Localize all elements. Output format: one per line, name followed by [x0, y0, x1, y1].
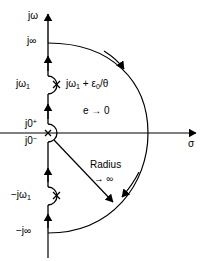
label-j-zero-minus-base: j0	[25, 135, 33, 146]
label-j-zero-plus-base: j0	[25, 118, 33, 129]
label-j-omega-1: jω1	[16, 79, 30, 90]
pole-expression-tail-2: /θ	[100, 78, 108, 89]
label-j-zero-minus: j0−	[25, 135, 37, 146]
label-epsilon-limit: e → 0	[83, 106, 110, 116]
large-arc-arrow-lower	[122, 172, 139, 197]
large-closing-arc	[48, 43, 148, 233]
label-neg-j-omega-1-base: −jω	[11, 189, 27, 200]
label-j-zero-plus-superscript: +	[33, 117, 37, 126]
label-neg-j-omega-1-subscript: 1	[27, 193, 31, 202]
label-j-omega-1-subscript: 1	[26, 82, 30, 91]
label-radius-limit: → ∞	[94, 174, 113, 184]
large-arc-arrow-upper	[104, 51, 124, 69]
imaginary-axis-label: jω	[28, 11, 38, 21]
label-neg-j-omega-1: −jω1	[11, 190, 31, 201]
label-j-infinity: j∞	[27, 36, 36, 46]
label-j-omega-1-base: jω	[16, 78, 26, 89]
label-j-zero-minus-superscript: −	[33, 134, 37, 143]
label-neg-j-infinity: −j∞	[16, 226, 31, 236]
pole-expression-tail: + ε	[80, 78, 96, 89]
label-radius: Radius	[90, 160, 121, 170]
real-axis-label: σ	[188, 139, 194, 149]
label-pole-expression: jω1 + ε0/θ	[66, 79, 108, 90]
pole-expression-head: jω	[66, 78, 76, 89]
radius-pointer-line	[54, 140, 113, 202]
nyquist-contour-figure: jω j∞ jω1 jω1 + ε0/θ e → 0 j0+ j0− Radiu…	[0, 0, 208, 261]
label-j-zero-plus: j0+	[25, 118, 37, 129]
